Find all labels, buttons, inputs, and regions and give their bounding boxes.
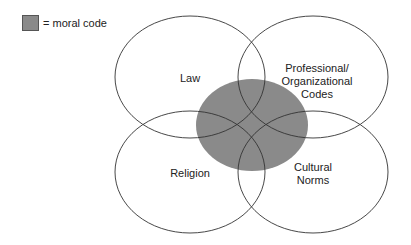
cultural-label-2: Norms [297,174,330,186]
professional-label-3: Codes [301,88,333,100]
professional-label-2: Organizational [282,75,353,87]
religion-label: Religion [170,167,210,179]
moral-code-region [196,79,308,171]
cultural-label-1: Cultural [294,161,332,173]
venn-diagram: Law Professional/ Organizational Codes R… [0,0,411,245]
law-label: Law [180,72,200,84]
professional-label-1: Professional/ [285,62,350,74]
